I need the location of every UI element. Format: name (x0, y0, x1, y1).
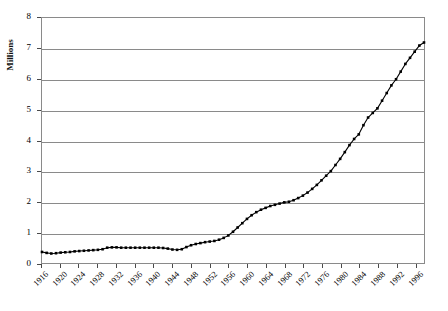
data-point (83, 249, 86, 252)
data-point (106, 246, 109, 249)
x-axis-tick (359, 264, 360, 268)
data-point (399, 70, 402, 73)
x-axis-tick (341, 264, 342, 268)
chart-figure: Millions 012345678 191619201924192819321… (0, 0, 448, 311)
data-point (232, 230, 235, 233)
data-point (157, 246, 160, 249)
data-point (78, 250, 81, 253)
data-point (204, 241, 207, 244)
series-markers (41, 41, 426, 255)
x-axis-tick (397, 264, 398, 268)
series-line (42, 43, 424, 254)
y-axis-tick-label: 7 (9, 42, 31, 52)
data-point (227, 234, 230, 237)
x-axis-tick (60, 264, 61, 268)
x-axis-tick (116, 264, 117, 268)
data-point (143, 246, 146, 249)
data-point (288, 200, 291, 203)
x-axis-tick (191, 264, 192, 268)
x-axis-tick (416, 264, 417, 268)
y-axis-tick-label: 6 (9, 73, 31, 83)
data-point (139, 246, 142, 249)
data-point (59, 251, 62, 254)
data-point (120, 246, 123, 249)
data-point (325, 174, 328, 177)
y-axis-tick-label: 4 (9, 135, 31, 145)
data-point (236, 226, 239, 229)
data-point (381, 99, 384, 102)
data-point (348, 144, 351, 147)
data-point (409, 57, 412, 60)
data-point (418, 44, 421, 47)
data-point (250, 214, 253, 217)
data-point (55, 252, 58, 255)
data-point (134, 246, 137, 249)
data-point (330, 170, 333, 173)
x-axis-tick (228, 264, 229, 268)
data-point (320, 179, 323, 182)
data-point (357, 133, 360, 136)
data-point (390, 84, 393, 87)
data-point (362, 124, 365, 127)
data-point (218, 238, 221, 241)
x-axis-tick (285, 264, 286, 268)
data-point (64, 251, 67, 254)
y-axis-tick-label: 0 (9, 258, 31, 268)
data-point (92, 249, 95, 252)
data-point (376, 107, 379, 110)
data-point (97, 249, 100, 252)
data-point (213, 240, 216, 243)
data-point (339, 158, 342, 161)
data-point (371, 112, 374, 115)
data-point (297, 197, 300, 200)
data-point (260, 208, 263, 211)
data-point (423, 41, 426, 44)
data-point (199, 242, 202, 245)
data-point (367, 116, 370, 119)
x-axis-tick (135, 264, 136, 268)
data-point (311, 188, 314, 191)
data-point (162, 247, 165, 250)
data-point (125, 246, 128, 249)
data-point (404, 63, 407, 66)
data-point (185, 246, 188, 249)
y-axis-tick-label: 5 (9, 104, 31, 114)
data-point (306, 191, 309, 194)
x-axis-tick (97, 264, 98, 268)
data-point (129, 246, 132, 249)
data-point (69, 251, 72, 254)
x-axis-tick (322, 264, 323, 268)
data-point (413, 50, 416, 53)
data-point (171, 248, 174, 251)
plot-area (41, 17, 425, 264)
x-axis-tick (153, 264, 154, 268)
y-axis-tick-label: 1 (9, 227, 31, 237)
data-point (269, 205, 272, 208)
data-point (222, 237, 225, 240)
data-point (395, 78, 398, 81)
data-point (73, 250, 76, 253)
x-axis-tick (210, 264, 211, 268)
data-point (302, 194, 305, 197)
data-point (41, 251, 44, 254)
data-point (166, 247, 169, 250)
data-point (194, 243, 197, 246)
data-point (241, 222, 244, 225)
data-point (274, 204, 277, 207)
data-point (148, 246, 151, 249)
y-axis-tick-label: 3 (9, 165, 31, 175)
data-point (292, 199, 295, 202)
data-point (344, 151, 347, 154)
x-axis-tick (247, 264, 248, 268)
data-point (334, 164, 337, 167)
data-point (115, 246, 118, 249)
data-point (316, 184, 319, 187)
data-point (111, 246, 114, 249)
data-point (190, 244, 193, 247)
x-axis-tick (378, 264, 379, 268)
data-point (176, 249, 179, 252)
data-point (87, 249, 90, 252)
data-point (101, 248, 104, 251)
data-point (278, 202, 281, 205)
data-point (50, 252, 53, 255)
